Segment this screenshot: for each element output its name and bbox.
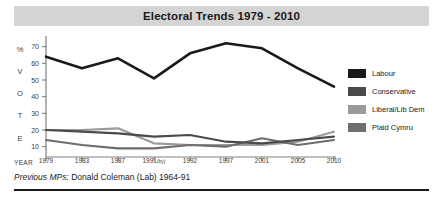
y-axis-tick-label: 50 (31, 77, 39, 84)
y-axis-tick-label: 10 (31, 143, 39, 150)
legend-swatch-icon (348, 87, 366, 96)
legend-item-label: Plaid Cymru (372, 123, 413, 132)
legend-item-label: Liberal/Lib Dem (372, 105, 425, 114)
series-line-liberal-lib-dem (46, 128, 334, 145)
x-axis-tick-label: 1991(by) (142, 157, 165, 164)
x-axis-tick-label: 1997 (219, 157, 233, 164)
y-axis-tick-label: 20 (31, 127, 39, 134)
footer-note: Previous MPs: Donald Coleman (Lab) 1964-… (14, 172, 190, 182)
x-axis-tick-label: 2005 (291, 157, 305, 164)
y-axis-tick-label: 70 (31, 43, 39, 50)
x-axis-tick-label: 2001 (255, 157, 269, 164)
x-axis-tick-label: 1983 (75, 157, 89, 164)
legend-item-label: Labour (372, 69, 395, 78)
x-axis-tick-labels: 1979198319871991(by)19921997200120052010 (0, 157, 443, 169)
y-axis-tick-label: 30 (31, 110, 39, 117)
x-axis-tick-label: 2010 (327, 157, 341, 164)
x-axis-tick-label: 1987 (111, 157, 125, 164)
legend-item[interactable]: Labour (348, 66, 440, 81)
x-axis-tick-label: 1992 (183, 157, 197, 164)
chart-title-band: Electoral Trends 1979 - 2010 (14, 6, 429, 26)
footer-note-lead: Previous MPs: (14, 172, 69, 182)
legend-swatch-icon (348, 123, 366, 132)
footer-divider (14, 189, 429, 191)
legend-item[interactable]: Conservative (348, 84, 440, 99)
chart-screenshot: Electoral Trends 1979 - 2010 % V O T E 1… (0, 0, 443, 198)
x-axis-tick-label: 1979 (39, 157, 53, 164)
series-line-conservative (46, 130, 334, 143)
legend-swatch-icon (348, 105, 366, 114)
chart-legend: LabourConservativeLiberal/Lib DemPlaid C… (348, 66, 440, 138)
y-axis-tick-label: 60 (31, 60, 39, 67)
legend-item[interactable]: Liberal/Lib Dem (348, 102, 440, 117)
page-title: Electoral Trends 1979 - 2010 (143, 10, 300, 22)
legend-item[interactable]: Plaid Cymru (348, 120, 440, 135)
legend-swatch-icon (348, 69, 366, 78)
y-axis-tick-label: 40 (31, 93, 39, 100)
footer-note-text: Donald Coleman (Lab) 1964-91 (71, 172, 190, 182)
legend-item-label: Conservative (372, 87, 416, 96)
series-line-labour (46, 43, 334, 86)
